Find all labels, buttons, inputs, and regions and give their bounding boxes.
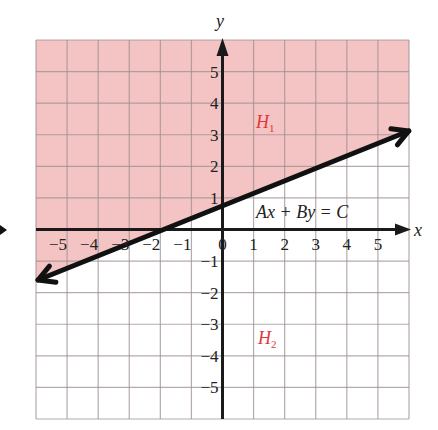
region-h2-main: H [257,328,272,348]
x-tick-label: 2 [280,235,289,254]
x-tick-label: −3 [111,235,129,254]
y-tick-label: 3 [210,126,219,145]
y-tick-label: 2 [210,157,219,176]
y-axis-label: y [214,11,224,31]
x-axis-label: x [413,220,422,240]
x-tick-label: 4 [343,235,352,254]
x-tick-label: 1 [249,235,258,254]
y-tick-label: 4 [210,94,219,113]
half-plane-chart: −5−4−3−2−101234554321−1−2−3−4−5 x y Ax +… [0,0,438,430]
region-h2-sub: 2 [271,338,277,350]
x-tick-label: −4 [80,235,99,254]
x-tick-label: −2 [142,235,160,254]
y-tick-label: −4 [200,347,219,366]
x-tick-label: 3 [312,235,321,254]
y-tick-label: 1 [210,189,219,208]
x-tick-label: 5 [374,235,383,254]
region-h1-main: H [255,112,270,132]
y-tick-label: −5 [200,378,218,397]
y-tick-label: −2 [200,284,218,303]
y-tick-label: −1 [200,252,218,271]
x-tick-label: −1 [173,235,191,254]
y-tick-label: 5 [210,63,219,82]
margin-arrow-icon [0,225,7,235]
region-h1-sub: 1 [269,122,275,134]
x-tick-label: −5 [49,235,67,254]
y-tick-label: −3 [200,315,218,334]
equation-label: Ax + By = C [255,202,349,222]
x-tick-label: 0 [218,235,227,254]
region-label-h2: H2 [257,328,277,350]
